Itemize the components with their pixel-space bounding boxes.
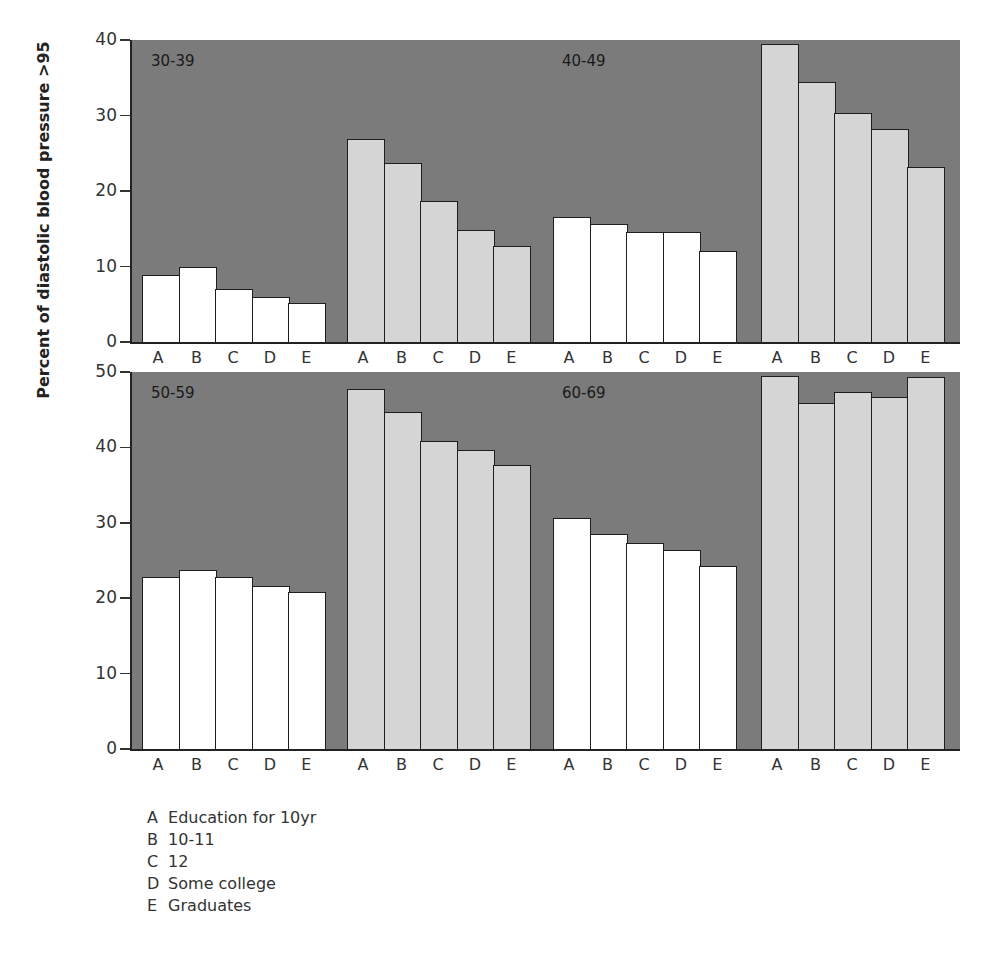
bar-c bbox=[626, 543, 664, 749]
bar-d bbox=[457, 450, 495, 749]
bar-e bbox=[288, 592, 326, 749]
y-tick bbox=[120, 190, 130, 192]
bar-c bbox=[626, 232, 664, 342]
x-category-label: D bbox=[871, 755, 907, 774]
bar-c bbox=[834, 392, 872, 749]
y-tick-label: 30 bbox=[77, 105, 117, 125]
x-category-label: E bbox=[493, 348, 529, 367]
x-category-label: B bbox=[590, 755, 626, 774]
bar-c bbox=[834, 113, 872, 342]
bar-a bbox=[553, 217, 591, 342]
x-category-label: A bbox=[345, 755, 381, 774]
bar-e bbox=[493, 246, 531, 342]
age-group-title: 50-59 bbox=[151, 384, 195, 402]
x-category-label: B bbox=[798, 755, 834, 774]
y-tick-label: 10 bbox=[77, 663, 117, 683]
bar-c bbox=[215, 577, 253, 749]
bar-b bbox=[590, 224, 628, 342]
age-group-title: 60-69 bbox=[562, 384, 606, 402]
x-category-label: E bbox=[288, 348, 324, 367]
x-category-label: D bbox=[457, 348, 493, 367]
bar-e bbox=[699, 566, 737, 749]
age-group-title: 40-49 bbox=[562, 52, 606, 70]
x-category-label: C bbox=[215, 348, 251, 367]
legend: A Education for 10yr B 10-11 C 12 D Some… bbox=[147, 807, 316, 917]
bar-c bbox=[420, 201, 458, 342]
bar-d bbox=[457, 230, 495, 342]
bar-b bbox=[384, 412, 422, 749]
x-category-label: B bbox=[179, 348, 215, 367]
legend-item-e: E Graduates bbox=[147, 895, 316, 917]
y-tick bbox=[120, 673, 130, 675]
y-tick bbox=[120, 341, 130, 343]
x-category-label: C bbox=[215, 755, 251, 774]
x-category-label: E bbox=[699, 348, 735, 367]
bar-b bbox=[384, 163, 422, 342]
x-category-label: C bbox=[420, 755, 456, 774]
x-category-label: B bbox=[590, 348, 626, 367]
bar-d bbox=[663, 550, 701, 749]
x-category-label: D bbox=[252, 348, 288, 367]
y-tick-label: 20 bbox=[77, 587, 117, 607]
bar-e bbox=[493, 465, 531, 749]
bar-d bbox=[871, 397, 909, 749]
age-group-title: 30-39 bbox=[151, 52, 195, 70]
bar-b bbox=[590, 534, 628, 749]
x-category-label: A bbox=[345, 348, 381, 367]
x-category-label: E bbox=[493, 755, 529, 774]
x-category-label: A bbox=[759, 755, 795, 774]
x-category-label: A bbox=[140, 755, 176, 774]
bar-d bbox=[663, 232, 701, 342]
x-category-label: D bbox=[663, 755, 699, 774]
chart: Percent of diastolic blood pressure >95 … bbox=[0, 0, 995, 964]
y-tick bbox=[120, 39, 130, 41]
y-tick-label: 0 bbox=[77, 738, 117, 758]
x-category-label: B bbox=[384, 348, 420, 367]
x-category-label: D bbox=[252, 755, 288, 774]
x-category-label: A bbox=[140, 348, 176, 367]
bar-e bbox=[907, 167, 945, 342]
bar-a bbox=[553, 518, 591, 749]
x-category-label: A bbox=[551, 348, 587, 367]
y-tick-label: 0 bbox=[77, 331, 117, 351]
x-category-label: C bbox=[626, 755, 662, 774]
x-category-label: A bbox=[551, 755, 587, 774]
y-tick-label: 30 bbox=[77, 512, 117, 532]
y-tick bbox=[120, 266, 130, 268]
bar-d bbox=[871, 129, 909, 342]
x-category-label: C bbox=[420, 348, 456, 367]
bar-c bbox=[215, 289, 253, 342]
y-tick bbox=[120, 597, 130, 599]
x-category-label: E bbox=[699, 755, 735, 774]
bar-e bbox=[699, 251, 737, 342]
bar-b bbox=[798, 82, 836, 342]
x-category-label: C bbox=[834, 755, 870, 774]
y-tick bbox=[120, 522, 130, 524]
y-tick-label: 20 bbox=[77, 180, 117, 200]
legend-item-d: D Some college bbox=[147, 873, 316, 895]
bar-a bbox=[347, 139, 385, 342]
x-category-label: E bbox=[288, 755, 324, 774]
bar-a bbox=[142, 275, 180, 342]
bar-c bbox=[420, 441, 458, 749]
bar-e bbox=[907, 377, 945, 749]
x-category-label: C bbox=[834, 348, 870, 367]
y-axis-label: Percent of diastolic blood pressure >95 bbox=[34, 41, 53, 398]
x-category-label: D bbox=[871, 348, 907, 367]
x-category-label: A bbox=[759, 348, 795, 367]
bar-e bbox=[288, 303, 326, 342]
x-category-label: C bbox=[626, 348, 662, 367]
x-category-label: B bbox=[798, 348, 834, 367]
y-tick bbox=[120, 748, 130, 750]
y-tick-label: 40 bbox=[77, 29, 117, 49]
y-tick-label: 50 bbox=[77, 361, 117, 381]
legend-item-c: C 12 bbox=[147, 851, 316, 873]
x-category-label: E bbox=[907, 755, 943, 774]
bar-a bbox=[761, 44, 799, 342]
x-category-label: B bbox=[179, 755, 215, 774]
bar-a bbox=[761, 376, 799, 749]
y-tick-label: 10 bbox=[77, 256, 117, 276]
y-tick bbox=[120, 371, 130, 373]
legend-item-a: A Education for 10yr bbox=[147, 807, 316, 829]
bar-a bbox=[142, 577, 180, 749]
